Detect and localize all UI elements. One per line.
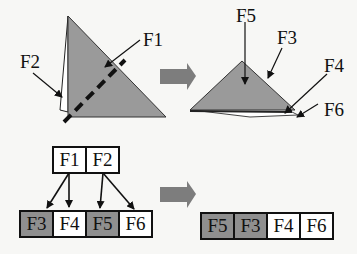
pointer-f4 <box>285 74 327 113</box>
flap-f2 <box>60 16 68 112</box>
pointer-f2 <box>33 73 62 97</box>
transform-arrow-bottom-icon <box>160 181 196 208</box>
tree-child-f6: F6 <box>118 210 153 238</box>
tree-child-f5: F5 <box>85 210 120 238</box>
result-cell-f6: F6 <box>299 212 334 240</box>
folded-triangle-after <box>190 61 298 117</box>
result-cell-f3: F3 <box>233 212 268 240</box>
transform-arrow-top-icon <box>160 63 196 90</box>
label-f6: F6 <box>324 99 344 120</box>
label-f3: F3 <box>277 27 297 48</box>
tree-edges <box>47 173 134 209</box>
result-cell-f5: F5 <box>200 212 235 240</box>
tree-child-f3: F3 <box>19 210 54 238</box>
label-f4: F4 <box>324 55 345 76</box>
tree-parent-f1: F1 <box>52 146 87 174</box>
pointer-f3 <box>268 48 282 78</box>
pointer-f6 <box>297 104 318 117</box>
label-f5: F5 <box>236 5 256 26</box>
tree-parent-f2: F2 <box>85 146 120 174</box>
tree-child-f4: F4 <box>52 210 87 238</box>
label-f2: F2 <box>20 51 40 72</box>
result-cell-f4: F4 <box>266 212 301 240</box>
label-f1: F1 <box>143 29 163 50</box>
